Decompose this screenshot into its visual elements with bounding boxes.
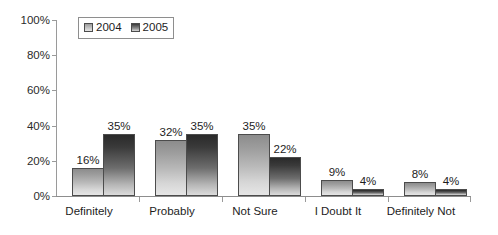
bar-definitely-not-2005[interactable]: 4% bbox=[435, 189, 467, 196]
x-axis-tick-mark bbox=[139, 197, 140, 202]
legend-item-2004[interactable]: 2004 bbox=[84, 21, 122, 34]
bar-definitely-2005[interactable]: 35% bbox=[103, 134, 135, 196]
bar-group-definitely: 16% 35% bbox=[72, 20, 138, 196]
y-axis-tick-label-100: 100% bbox=[21, 14, 50, 26]
legend-label-2004: 2004 bbox=[96, 21, 122, 34]
bar-group-probably: 32% 35% bbox=[155, 20, 221, 196]
bar-chart: 100% 80% 60% 40% 20% 0% 16% 35% 32% bbox=[0, 0, 498, 235]
y-axis-tick-label-80: 80% bbox=[27, 49, 50, 61]
legend-swatch-2004-icon bbox=[84, 23, 93, 32]
legend-item-2005[interactable]: 2005 bbox=[131, 21, 169, 34]
y-axis-tick-label-20: 20% bbox=[27, 155, 50, 167]
bar-value-label: 4% bbox=[443, 175, 460, 188]
bar-group-not-sure: 35% 22% bbox=[238, 20, 304, 196]
bar-group-i-doubt-it: 9% 4% bbox=[321, 20, 387, 196]
bar-value-label: 35% bbox=[190, 120, 213, 133]
bar-definitely-not-2004[interactable]: 8% bbox=[404, 182, 436, 196]
chart-legend: 2004 2005 bbox=[78, 17, 174, 39]
bar-value-label: 9% bbox=[329, 166, 346, 179]
bar-value-label: 35% bbox=[107, 120, 130, 133]
x-axis-tick-mark bbox=[305, 197, 306, 202]
x-axis-tick-mark bbox=[222, 197, 223, 202]
bar-probably-2005[interactable]: 35% bbox=[186, 134, 218, 196]
y-axis-labels: 100% 80% 60% 40% 20% 0% bbox=[0, 0, 50, 235]
y-axis-tick-label-40: 40% bbox=[27, 120, 50, 132]
bar-value-label: 16% bbox=[76, 154, 99, 167]
bar-value-label: 35% bbox=[242, 120, 265, 133]
bar-not-sure-2005[interactable]: 22% bbox=[269, 157, 301, 196]
bar-value-label: 8% bbox=[412, 168, 429, 181]
bar-probably-2004[interactable]: 32% bbox=[155, 140, 187, 196]
bar-i-doubt-it-2005[interactable]: 4% bbox=[352, 189, 384, 196]
y-axis-tick-label-0: 0% bbox=[33, 190, 50, 202]
legend-swatch-2005-icon bbox=[131, 23, 140, 32]
x-axis-line bbox=[56, 196, 471, 197]
x-axis-tick-mark bbox=[388, 197, 389, 202]
bar-value-label: 4% bbox=[360, 175, 377, 188]
bar-definitely-2004[interactable]: 16% bbox=[72, 168, 104, 196]
bar-group-definitely-not: 8% 4% bbox=[404, 20, 470, 196]
legend-label-2005: 2005 bbox=[143, 21, 169, 34]
bar-value-label: 32% bbox=[159, 126, 182, 139]
x-axis-category-label-definitely-not: Definitely Not bbox=[371, 204, 471, 218]
bar-not-sure-2004[interactable]: 35% bbox=[238, 134, 270, 196]
bar-i-doubt-it-2004[interactable]: 9% bbox=[321, 180, 353, 196]
bar-value-label: 22% bbox=[273, 143, 296, 156]
y-axis-tick-label-60: 60% bbox=[27, 84, 50, 96]
plot-area: 16% 35% 32% 35% 35% 22% bbox=[57, 20, 470, 196]
x-axis-tick-mark bbox=[470, 197, 471, 202]
